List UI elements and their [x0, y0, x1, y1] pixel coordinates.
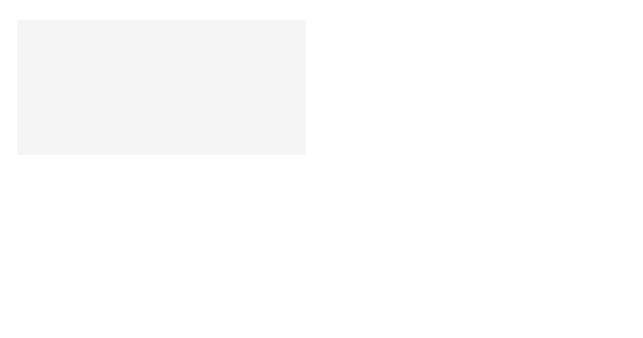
panel-a-diagram [0, 0, 320, 338]
panel-a [0, 0, 320, 338]
